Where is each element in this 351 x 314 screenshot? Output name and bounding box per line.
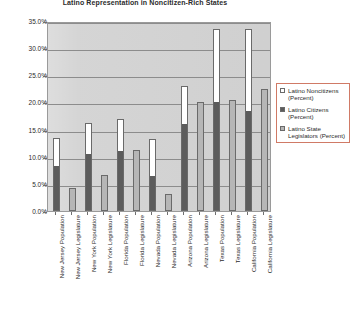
gridline (48, 104, 270, 105)
bar-segment-noncitizens (150, 140, 155, 176)
legend-item[interactable]: Latino State Legislators (Percent) (280, 125, 347, 140)
x-axis-label: Nevada Legislature (170, 215, 177, 268)
bar (69, 188, 76, 211)
chart-legend: Latino Noncitizens (Percent)Latino Citiz… (276, 83, 350, 143)
x-axis-label: Arizona Legislature (202, 215, 209, 268)
bar (229, 100, 236, 211)
gridline (48, 77, 270, 78)
x-axis-label: Florida Legislature (138, 215, 145, 266)
x-axis-tick-mark (55, 212, 56, 215)
bar-segment-legislators (102, 176, 107, 210)
bar (245, 29, 252, 211)
bar-segment-noncitizens (118, 120, 123, 151)
bar-segment-noncitizens (246, 30, 251, 111)
bar (53, 138, 60, 211)
x-axis-tick-mark (247, 212, 248, 215)
y-axis-tick-label: 10.0% (7, 154, 47, 161)
gridline (48, 159, 270, 160)
x-axis-label: Florida Population (122, 215, 129, 265)
bar (181, 86, 188, 211)
bar-segment-citizens (150, 176, 155, 210)
y-axis-tick-label: 30.0% (7, 45, 47, 52)
bar-segment-citizens (54, 166, 59, 210)
x-axis-tick-mark (167, 212, 168, 215)
x-axis-tick-mark (231, 212, 232, 215)
bar (213, 29, 220, 211)
x-axis-tick-mark (263, 212, 264, 215)
legend-item[interactable]: Latino Noncitizens (Percent) (280, 87, 347, 102)
legend-item[interactable]: Latino Citizens (Percent) (280, 106, 347, 121)
y-axis-tick-label: 35.0% (7, 18, 47, 25)
bar-segment-legislators (230, 101, 235, 210)
x-axis-tick-mark (103, 212, 104, 215)
bar-segment-citizens (246, 111, 251, 210)
y-axis: 0.0%5.0%10.0%15.0%20.0%25.0%30.0%35.0% (0, 0, 47, 314)
bar (261, 89, 268, 211)
y-axis-tick-label: 20.0% (7, 99, 47, 106)
plot-shading (48, 23, 270, 211)
gridline (48, 132, 270, 133)
y-axis-tick-label: 0.0% (7, 208, 47, 215)
gridline (48, 186, 270, 187)
bar (149, 139, 156, 211)
x-axis-label: Texas Legislature (234, 215, 241, 263)
bar (85, 123, 92, 211)
bar-segment-legislators (70, 189, 75, 210)
plot-area (47, 22, 271, 212)
x-axis-tick-mark (151, 212, 152, 215)
bar (101, 175, 108, 211)
x-axis-labels: New Jersey PopulationNew Jersey Legislat… (47, 212, 271, 312)
bar-segment-citizens (86, 154, 91, 210)
x-axis-tick-mark (135, 212, 136, 215)
x-axis-label: New York Population (90, 215, 97, 272)
gridline (48, 50, 270, 51)
x-axis-tick-mark (71, 212, 72, 215)
x-axis-label: Nevada Population (154, 215, 161, 267)
bar (133, 150, 140, 211)
bar (165, 194, 172, 211)
bar (117, 119, 124, 211)
x-axis-label: California Legislature (266, 215, 273, 273)
bar-segment-legislators (262, 90, 267, 210)
bar-segment-legislators (198, 103, 203, 210)
legend-item-label: Latino Citizens (Percent) (288, 106, 347, 121)
x-axis-label: California Population (250, 215, 257, 272)
bar-segment-noncitizens (54, 139, 59, 165)
bar (197, 102, 204, 211)
x-axis-label: Arizona Population (186, 215, 193, 267)
bar-segment-citizens (118, 151, 123, 210)
legend-swatch-icon (280, 88, 285, 93)
legend-swatch-icon (280, 126, 285, 131)
x-axis-tick-mark (199, 212, 200, 215)
x-axis-label: New York Legislature (106, 215, 113, 273)
legend-item-label: Latino Noncitizens (Percent) (288, 87, 347, 102)
legend-swatch-icon (280, 107, 285, 112)
y-axis-tick-label: 25.0% (7, 72, 47, 79)
bar-segment-noncitizens (86, 124, 91, 154)
chart-container: Latino Representation in Noncitizen-Rich… (0, 0, 351, 314)
bar-segment-citizens (214, 102, 219, 210)
y-axis-tick-label: 15.0% (7, 127, 47, 134)
x-axis-label: New Jersey Legislature (74, 215, 81, 279)
x-axis-tick-mark (87, 212, 88, 215)
bar-segment-noncitizens (214, 30, 219, 102)
bar-segment-legislators (166, 195, 171, 210)
bar-segment-citizens (182, 124, 187, 210)
legend-item-label: Latino State Legislators (Percent) (288, 125, 347, 140)
x-axis-label: New Jersey Population (58, 215, 65, 278)
y-axis-tick-label: 5.0% (7, 181, 47, 188)
bar-segment-legislators (134, 151, 139, 210)
x-axis-tick-mark (183, 212, 184, 215)
gridline (48, 23, 270, 24)
x-axis-tick-mark (215, 212, 216, 215)
x-axis-tick-mark (119, 212, 120, 215)
x-axis-label: Texas Population (218, 215, 225, 262)
bar-segment-noncitizens (182, 87, 187, 124)
